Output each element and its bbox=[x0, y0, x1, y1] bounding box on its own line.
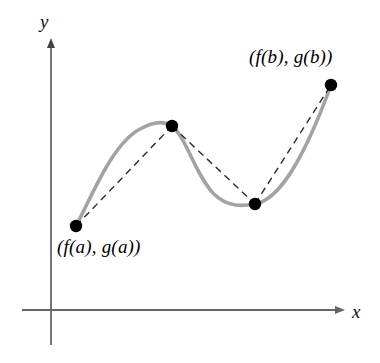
curve-points bbox=[70, 79, 337, 232]
parametric-curve bbox=[76, 85, 331, 226]
start-point-label: (f(a), g(a)) bbox=[57, 237, 141, 256]
point-end bbox=[325, 79, 337, 91]
point-start bbox=[70, 220, 82, 232]
x-axis-label: x bbox=[352, 302, 360, 321]
curve-diagram: y x (f(a), g(a)) (f(b), g(b)) bbox=[0, 0, 380, 363]
y-axis-label: y bbox=[40, 12, 48, 31]
point-peak bbox=[166, 120, 178, 132]
chord-segment-3 bbox=[255, 85, 331, 204]
end-point-label: (f(b), g(b)) bbox=[249, 47, 333, 66]
point-valley bbox=[249, 198, 261, 210]
